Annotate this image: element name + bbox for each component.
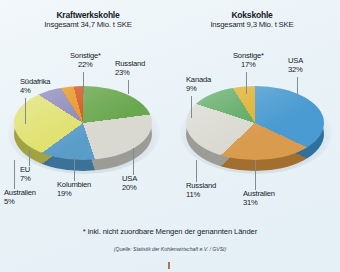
- left-leader-usa: [133, 148, 134, 175]
- left-label-sonstige: Sonstige* 22%: [70, 52, 101, 69]
- infographic-root: Kraftwerkskohle Insgesamt 34,7 Mio. t SK…: [0, 0, 340, 272]
- left-pie-chart[interactable]: [14, 86, 152, 160]
- left-leader-australien: [14, 160, 15, 189]
- left-leader-eu: [29, 150, 30, 166]
- left-chart-subtitle: Insgesamt 34,7 Mio. t SKE: [0, 21, 176, 30]
- right-label-australien: Australien 31%: [243, 190, 275, 207]
- left-label-suedafrika: Südafrika 4%: [20, 78, 50, 95]
- right-leader-sonstige: [246, 72, 247, 94]
- right-leader-kanada: [191, 96, 192, 118]
- left-label-usa: USA 20%: [122, 175, 137, 192]
- right-leader-usa: [297, 77, 298, 95]
- chart-panel: Kraftwerkskohle Insgesamt 34,7 Mio. t SK…: [0, 0, 340, 272]
- left-leader-kolumbien: [74, 156, 75, 181]
- right-label-usa: USA 32%: [288, 57, 303, 74]
- left-leader-suedafrika: [25, 98, 26, 124]
- left-leader-sonstige: [83, 72, 84, 94]
- left-label-australien: Australien 5%: [4, 189, 36, 206]
- right-chart-subtitle: Insgesamt 9,3 Mio. t SKE: [164, 21, 340, 30]
- right-leader-australien: [255, 160, 256, 190]
- left-leader-russland: [128, 80, 129, 94]
- right-pie-surface: [186, 86, 324, 160]
- right-label-sonstige: Sonstige* 17%: [233, 52, 264, 69]
- right-label-russland: Russland 11%: [186, 182, 216, 199]
- footnote-text: * inkl. nicht zuordbare Mengen der genan…: [0, 227, 340, 236]
- left-label-russland: Russland 23%: [115, 60, 145, 77]
- right-label-kanada: Kanada 9%: [186, 76, 211, 93]
- source-text: (Quelle: Statistik der Kohlenwirtschaft …: [0, 246, 340, 252]
- left-label-kolumbien: Kolumbien 19%: [57, 181, 91, 198]
- right-pie-chart[interactable]: [186, 86, 324, 160]
- left-pie-surface: [14, 86, 152, 160]
- right-leader-russland: [196, 160, 197, 182]
- page-tick-mark: [168, 262, 170, 269]
- left-label-eu: EU 7%: [20, 166, 31, 183]
